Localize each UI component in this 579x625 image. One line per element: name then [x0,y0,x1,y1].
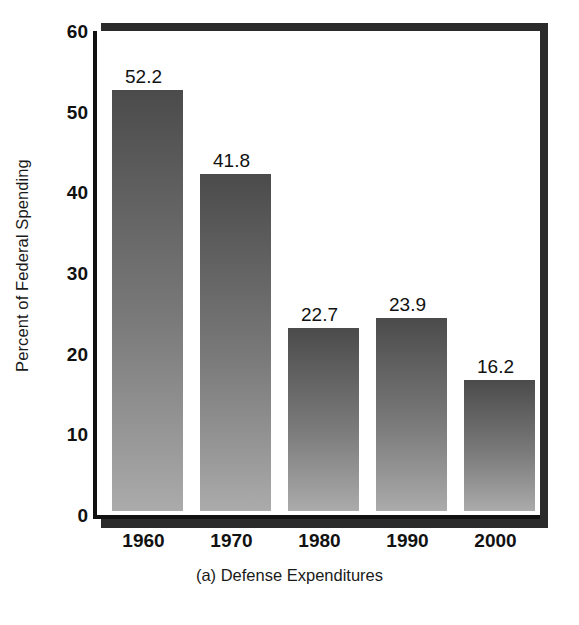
bar-value-label: 16.2 [440,357,551,376]
y-axis-tick-label: 50 [42,102,88,121]
figure-caption: (a) Defense Expenditures [0,566,579,585]
bar [112,90,183,511]
y-axis-title: Percent of Federal Spending [0,0,44,530]
bar-chart-figure: Percent of Federal Spending 605040302010… [0,0,579,625]
plot-area [93,31,540,519]
bar [200,174,271,511]
bar-value-label: 41.8 [176,151,287,170]
bar [288,328,359,511]
y-axis-tick-label: 20 [42,344,88,363]
y-axis-tick-label: 0 [42,506,88,525]
y-axis-tick-label: 30 [42,264,88,283]
y-axis-tick-labels: 6050403020100 [40,0,88,625]
y-axis-title-text: Percent of Federal Spending [13,159,32,372]
bar-value-label: 23.9 [352,295,463,314]
bar [376,318,447,511]
bar-value-label: 52.2 [88,67,199,86]
y-axis-tick-label: 40 [42,183,88,202]
bar [464,380,535,511]
y-axis-tick-label: 60 [42,22,88,41]
y-axis-tick-label: 10 [42,425,88,444]
x-axis-tick-label: 2000 [440,531,551,550]
bars-container [97,31,540,515]
